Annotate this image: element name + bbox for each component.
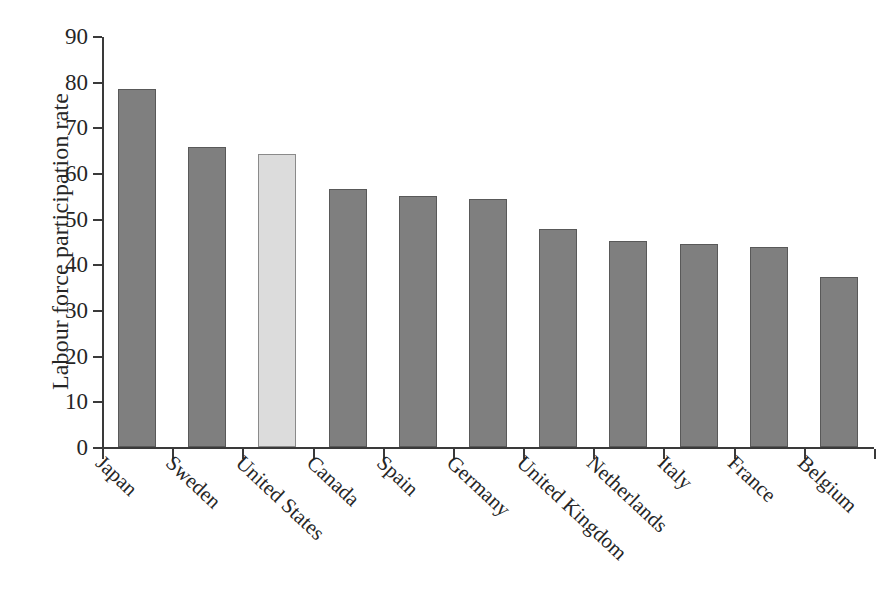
x-axis-line [102, 447, 874, 449]
bar-chart-figure: Labour force participation rate 90807060… [0, 0, 895, 599]
x-axis-category-label: Germany [443, 452, 514, 521]
x-axis-category-label: Spain [372, 452, 421, 500]
bar [609, 241, 647, 447]
bar [750, 247, 788, 447]
y-axis-tick-mark [93, 82, 102, 84]
bar [680, 244, 718, 447]
bar [329, 189, 367, 447]
y-axis-tick-label: 10 [65, 390, 88, 413]
y-axis-tick-label: 20 [65, 344, 88, 367]
x-axis-category-label: Sweden [162, 452, 225, 513]
y-axis-tick-mark [93, 310, 102, 312]
y-axis-tick-label: 50 [65, 207, 88, 230]
y-axis-tick-mark [93, 36, 102, 38]
x-axis-category-label: Canada [302, 452, 362, 510]
bar [539, 229, 577, 447]
y-axis-tick-label: 40 [65, 253, 88, 276]
y-axis-tick-mark [93, 356, 102, 358]
bar [399, 196, 437, 447]
x-axis-category-label: Japan [92, 452, 141, 500]
y-axis-tick-mark [93, 173, 102, 175]
bar [188, 147, 226, 447]
y-axis-tick-mark [93, 264, 102, 266]
y-axis-tick-mark [93, 447, 102, 449]
bar [469, 199, 507, 447]
y-axis-tick-label: 30 [65, 299, 88, 322]
x-axis-category-label: Italy [653, 452, 695, 494]
plot-area: 9080706050403020100 [102, 30, 877, 450]
x-axis-category-label: Belgium [794, 452, 861, 517]
y-axis-tick-label: 80 [65, 70, 88, 93]
y-axis-tick-label: 70 [65, 116, 88, 139]
x-axis-category-label: France [723, 452, 779, 506]
y-axis-tick-mark [93, 127, 102, 129]
y-axis-line [102, 37, 104, 448]
x-axis-category-labels: JapanSwedenUnited StatesCanadaSpainGerma… [102, 452, 892, 597]
y-axis-tick-label: 0 [77, 436, 89, 459]
y-axis-tick-label: 90 [65, 25, 88, 48]
bar [258, 154, 296, 447]
y-axis-tick-label: 60 [65, 162, 88, 185]
y-axis-tick-mark [93, 219, 102, 221]
y-axis-tick-mark [93, 401, 102, 403]
bar [118, 89, 156, 447]
bar [820, 277, 858, 447]
